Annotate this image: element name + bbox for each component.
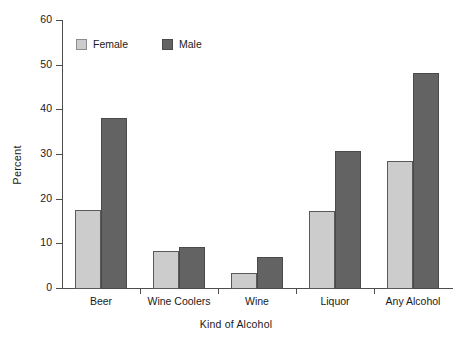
female-swatch-icon (76, 39, 87, 50)
y-tick-mark (56, 109, 62, 110)
legend: Female Male (76, 38, 202, 50)
legend-label-female: Female (93, 38, 128, 50)
bar-wine-coolers-male (179, 247, 205, 289)
x-tick-label-any-alcohol: Any Alcohol (386, 295, 441, 307)
y-tick-label: 20 (0, 192, 52, 205)
y-tick-label: 40 (0, 102, 52, 115)
x-axis-label: Kind of Alcohol (0, 318, 472, 330)
y-tick-label: 30 (0, 147, 52, 160)
bar-wine-female (231, 273, 257, 289)
bar-wine-male (257, 257, 283, 289)
y-tick-mark (56, 20, 62, 21)
male-swatch-icon (162, 39, 173, 50)
x-tick-label-wine: Wine (245, 295, 269, 307)
y-tick-mark (56, 65, 62, 66)
legend-item-male[interactable]: Male (162, 38, 202, 50)
y-tick-mark (56, 243, 62, 244)
y-tick-label: 10 (0, 236, 52, 249)
bar-wine-coolers-female (153, 251, 179, 289)
y-tick-label: 50 (0, 58, 52, 71)
x-tick-label-liquor: Liquor (320, 295, 349, 307)
legend-label-male: Male (179, 38, 202, 50)
bar-beer-female (75, 210, 101, 289)
y-tick-mark (56, 154, 62, 155)
bar-chart: Percent 0102030405060 BeerWine CoolersWi… (0, 0, 472, 344)
x-tick-mark (296, 289, 297, 294)
bar-any-alcohol-male (413, 73, 439, 289)
x-tick-mark (374, 289, 375, 294)
x-tick-mark (218, 289, 219, 294)
legend-item-female[interactable]: Female (76, 38, 128, 50)
y-tick-label: 0 (0, 281, 52, 294)
x-tick-label-wine-coolers: Wine Coolers (147, 295, 210, 307)
y-tick-mark (56, 288, 62, 289)
y-tick-label: 60 (0, 13, 52, 26)
bar-liquor-female (309, 211, 335, 289)
bar-beer-male (101, 118, 127, 289)
x-tick-label-beer: Beer (90, 295, 112, 307)
bar-liquor-male (335, 151, 361, 289)
y-tick-mark (56, 199, 62, 200)
y-axis-line (62, 20, 63, 289)
x-tick-mark (140, 289, 141, 294)
bar-any-alcohol-female (387, 161, 413, 289)
